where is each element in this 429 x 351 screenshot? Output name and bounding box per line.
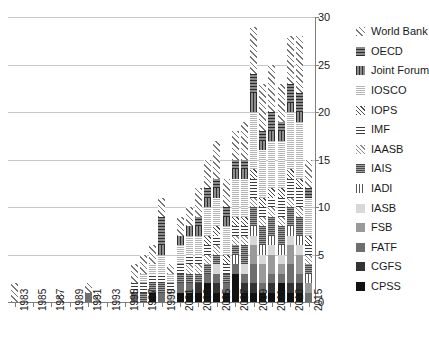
x-axis-tick <box>51 303 52 307</box>
bar-segment <box>149 274 156 284</box>
legend-item-iosco[interactable]: IOSCO <box>356 81 423 101</box>
bar-segment <box>259 245 266 255</box>
legend-swatch-icon <box>356 184 365 193</box>
legend-item-iaasb[interactable]: IAASB <box>356 140 423 160</box>
bar-segment <box>296 217 303 236</box>
bar-segment <box>278 198 285 217</box>
bar-segment <box>232 160 239 170</box>
bar-segment <box>268 198 275 208</box>
bar-segment <box>278 141 285 189</box>
legend-item-fatf[interactable]: FATF <box>356 238 423 258</box>
legend-item-iais[interactable]: IAIS <box>356 159 423 179</box>
legend-item-iadi[interactable]: IADI <box>356 179 423 199</box>
bar-stack <box>195 188 202 302</box>
bar-segment <box>296 112 303 122</box>
bar <box>204 160 211 303</box>
bar-segment <box>232 217 239 227</box>
bar-segment <box>296 36 303 93</box>
bar-stack <box>213 141 220 303</box>
bar-segment <box>278 188 285 198</box>
bar-segment <box>250 293 257 303</box>
legend-item-imf[interactable]: IMF <box>356 120 423 140</box>
legend-item-iops[interactable]: IOPS <box>356 100 423 120</box>
legend-item-iasb[interactable]: IASB <box>356 198 423 218</box>
bar-stack <box>250 27 257 303</box>
x-axis-tick <box>15 303 16 307</box>
bar-segment <box>204 160 211 189</box>
x-axis-tick-label: 2011 <box>276 289 287 311</box>
bar <box>195 188 202 302</box>
bar-segment <box>149 245 156 264</box>
bar-stack <box>241 122 248 303</box>
bar-stack <box>140 255 147 303</box>
bar-segment <box>177 217 184 236</box>
x-axis-tick-label: 1993 <box>111 289 122 311</box>
bar-segment <box>250 74 257 93</box>
bar-segment <box>305 245 312 255</box>
bar-segment <box>158 198 165 217</box>
legend-swatch-icon <box>356 125 365 134</box>
bar-segment <box>259 207 266 217</box>
legend-swatch-icon <box>356 106 365 115</box>
bar-segment <box>177 283 184 293</box>
x-axis-tick-label: 2001 <box>184 289 195 311</box>
legend-item-label: IASB <box>371 203 396 214</box>
legend-item-fsb[interactable]: FSB <box>356 218 423 238</box>
bar <box>186 207 193 302</box>
bar-segment <box>213 236 220 246</box>
bar-segment <box>305 160 312 189</box>
legend: World BankOECDJoint ForumIOSCOIOPSIMFIAA… <box>356 22 423 296</box>
bar-segment <box>232 169 239 179</box>
bar-segment <box>186 207 193 226</box>
x-axis-tick-label: 2009 <box>258 289 269 311</box>
bar-segment <box>305 274 312 284</box>
x-axis-tick <box>88 303 89 307</box>
legend-item-cpss[interactable]: CPSS <box>356 277 423 297</box>
bar-segment <box>278 264 285 274</box>
bar-segment <box>296 122 303 179</box>
legend-item-joint-forum[interactable]: Joint Forum <box>356 61 423 81</box>
bar <box>305 160 312 303</box>
x-axis-tick-label: 2005 <box>221 289 232 311</box>
bar-segment <box>296 255 303 274</box>
bar-segment <box>259 141 266 151</box>
bar-segment <box>250 93 257 112</box>
x-axis-tick <box>217 303 218 307</box>
legend-item-cgfs[interactable]: CGFS <box>356 257 423 277</box>
bar-segment <box>278 274 285 284</box>
legend-item-label: IADI <box>371 183 392 194</box>
legend-item-world-bank[interactable]: World Bank <box>356 22 423 42</box>
bar-segment <box>11 283 18 302</box>
bar-segment <box>250 112 257 169</box>
bar-segment <box>296 188 303 207</box>
bar-segment <box>177 236 184 246</box>
bar <box>85 283 92 302</box>
bar-segment <box>250 283 257 293</box>
bar-segment <box>278 245 285 255</box>
bar-segment <box>241 169 248 179</box>
bar-segment <box>287 283 294 293</box>
bar-segment <box>250 226 257 236</box>
legend-item-label: World Bank <box>371 26 428 37</box>
bar-segment <box>250 198 257 208</box>
bar-segment <box>213 226 220 236</box>
bar <box>287 36 294 302</box>
bar-segment <box>204 245 211 255</box>
bar-segment <box>140 293 147 303</box>
legend-item-oecd[interactable]: OECD <box>356 42 423 62</box>
bar-segment <box>186 236 193 255</box>
bar-segment <box>259 131 266 141</box>
bar-stack <box>85 283 92 302</box>
bar <box>296 36 303 302</box>
bar <box>232 131 239 302</box>
legend-swatch-icon <box>356 204 365 213</box>
bar-segment <box>241 179 248 217</box>
legend-item-label: IOPS <box>371 105 397 116</box>
bar-segment <box>305 198 312 236</box>
x-axis-tick-label: 2007 <box>239 289 250 311</box>
bar-segment <box>213 283 220 293</box>
bar-segment <box>250 27 257 75</box>
bar-segment <box>213 274 220 284</box>
bar-segment <box>305 188 312 198</box>
